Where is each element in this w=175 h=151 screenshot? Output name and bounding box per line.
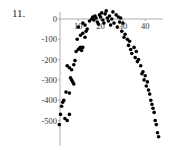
data-point xyxy=(135,50,139,54)
data-point xyxy=(112,21,116,25)
data-point xyxy=(94,16,98,20)
data-point xyxy=(118,20,122,24)
data-point xyxy=(102,21,106,25)
data-point xyxy=(130,52,134,56)
data-point xyxy=(143,74,147,78)
data-point xyxy=(100,11,104,15)
data-point xyxy=(68,113,72,117)
data-point xyxy=(108,14,112,18)
data-point xyxy=(107,19,111,23)
data-point xyxy=(110,17,114,21)
data-point xyxy=(152,111,156,115)
data-point xyxy=(70,68,74,72)
y-tick-label: 0 xyxy=(53,14,57,24)
data-point xyxy=(139,64,143,68)
data-point xyxy=(99,15,103,19)
data-point xyxy=(120,29,124,33)
data-point xyxy=(72,82,76,86)
y-tick-label: -100 xyxy=(41,34,57,44)
data-point xyxy=(60,105,64,109)
data-point xyxy=(127,44,131,48)
data-point xyxy=(85,27,89,31)
data-point xyxy=(142,78,146,82)
x-tick-label: 40 xyxy=(141,21,150,31)
data-point xyxy=(72,63,76,67)
data-point xyxy=(149,98,153,102)
data-point xyxy=(68,91,72,95)
data-point xyxy=(83,36,87,40)
data-point xyxy=(123,32,127,36)
data-point xyxy=(153,119,157,123)
data-point xyxy=(146,80,150,84)
data-point xyxy=(75,38,79,42)
data-point xyxy=(116,25,120,29)
data-point xyxy=(132,46,136,50)
y-tick-label: -300 xyxy=(41,75,57,85)
data-point xyxy=(104,9,108,13)
data-point xyxy=(137,58,141,62)
data-point xyxy=(133,56,137,60)
y-tick-label: -400 xyxy=(41,95,57,105)
data-point xyxy=(83,23,87,27)
data-point xyxy=(101,18,105,22)
data-point xyxy=(121,21,125,25)
data-point xyxy=(81,46,85,50)
data-point xyxy=(148,92,152,96)
data-point xyxy=(155,123,159,127)
data-point xyxy=(151,107,155,111)
data-point xyxy=(77,25,81,29)
data-point xyxy=(119,16,123,20)
data-point xyxy=(128,40,132,44)
data-point xyxy=(156,131,160,135)
y-tick-label: -500 xyxy=(41,116,57,126)
data-point xyxy=(122,36,126,40)
data-point xyxy=(59,113,63,117)
data-point xyxy=(80,49,84,53)
data-point xyxy=(157,135,161,139)
scatter-plot: 0-100-200-300-400-50010203040 xyxy=(0,0,175,151)
data-point xyxy=(111,10,115,14)
data-point xyxy=(141,70,145,74)
data-point xyxy=(65,119,69,123)
data-point xyxy=(58,123,62,127)
data-point xyxy=(147,88,151,92)
data-point xyxy=(145,84,149,88)
data-point xyxy=(81,31,85,35)
data-point xyxy=(97,22,101,26)
data-point xyxy=(73,59,77,63)
data-point xyxy=(109,23,113,27)
data-point xyxy=(150,103,154,107)
y-tick-label: -200 xyxy=(41,55,57,65)
data-point xyxy=(64,90,68,94)
data-point xyxy=(129,48,133,52)
data-point xyxy=(62,98,66,102)
